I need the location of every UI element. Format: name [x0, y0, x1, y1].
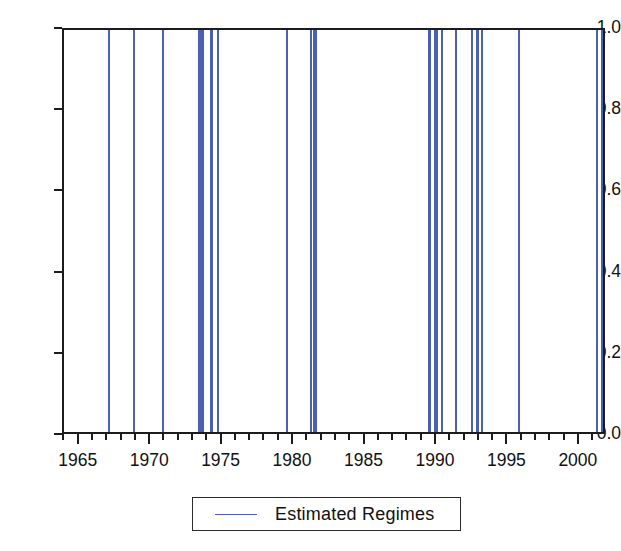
x-tick-label: 2000 — [543, 452, 613, 470]
x-tick-minor — [234, 434, 236, 440]
x-tick-minor — [491, 434, 493, 440]
regime-spike — [434, 30, 438, 432]
regime-spike — [455, 30, 457, 432]
x-tick-minor — [105, 434, 107, 440]
y-tick-mark — [54, 189, 62, 191]
x-tick-label: 1975 — [186, 452, 256, 470]
regime-spike — [476, 30, 480, 432]
x-tick-major — [577, 434, 579, 444]
x-tick-minor — [591, 434, 593, 440]
x-tick-minor — [563, 434, 565, 440]
x-tick-minor — [205, 434, 207, 440]
regime-spike — [601, 30, 603, 432]
x-tick-minor — [248, 434, 250, 440]
x-tick-minor — [91, 434, 93, 440]
x-tick-major — [434, 434, 436, 444]
x-tick-major — [363, 434, 365, 444]
regime-spike — [198, 30, 204, 432]
regime-spike — [596, 30, 598, 432]
x-tick-major — [291, 434, 293, 444]
x-tick-label: 1970 — [114, 452, 184, 470]
y-tick-mark — [54, 433, 62, 435]
regime-spike — [286, 30, 288, 432]
x-tick-minor — [191, 434, 193, 440]
x-tick-minor — [477, 434, 479, 440]
x-tick-minor — [463, 434, 465, 440]
x-tick-minor — [405, 434, 407, 440]
plot-area — [62, 28, 605, 434]
x-tick-minor — [548, 434, 550, 440]
x-tick-minor — [120, 434, 122, 440]
regime-spike — [133, 30, 135, 432]
regime-spike — [108, 30, 110, 432]
x-tick-major — [220, 434, 222, 444]
x-tick-label: 1985 — [329, 452, 399, 470]
x-tick-major — [148, 434, 150, 444]
regime-spike — [471, 30, 473, 432]
x-tick-label: 1990 — [400, 452, 470, 470]
x-tick-minor — [262, 434, 264, 440]
x-tick-major — [505, 434, 507, 444]
x-tick-label: 1965 — [43, 452, 113, 470]
x-tick-minor — [277, 434, 279, 440]
regime-spike — [428, 30, 430, 432]
legend-label-estimated-regimes: Estimated Regimes — [275, 504, 434, 525]
y-tick-mark — [54, 27, 62, 29]
x-tick-label: 1995 — [471, 452, 541, 470]
legend-line-sample-estimated-regimes — [215, 514, 257, 515]
x-tick-minor — [534, 434, 536, 440]
x-tick-minor — [177, 434, 179, 440]
x-tick-minor — [134, 434, 136, 440]
x-tick-minor — [348, 434, 350, 440]
x-tick-minor — [420, 434, 422, 440]
y-tick-mark — [54, 352, 62, 354]
x-tick-minor — [320, 434, 322, 440]
regime-spike — [518, 30, 520, 432]
x-tick-minor — [334, 434, 336, 440]
regime-spike — [313, 30, 317, 432]
x-tick-minor — [520, 434, 522, 440]
regime-spike — [162, 30, 164, 432]
x-tick-label: 1980 — [257, 452, 327, 470]
x-tick-minor — [391, 434, 393, 440]
x-tick-minor — [162, 434, 164, 440]
regime-spike — [210, 30, 212, 432]
regime-spike — [310, 30, 312, 432]
x-tick-minor — [62, 434, 64, 440]
chart-figure: 0.00.20.40.60.81.0 196519701975198019851… — [0, 0, 621, 551]
x-tick-minor — [377, 434, 379, 440]
x-tick-minor — [448, 434, 450, 440]
estimated-regimes-series — [64, 30, 603, 432]
legend: Estimated Regimes — [192, 497, 461, 531]
regime-spike — [481, 30, 483, 432]
x-tick-major — [77, 434, 79, 444]
regime-spike — [604, 30, 605, 432]
x-tick-minor — [305, 434, 307, 440]
regime-spike — [217, 30, 219, 432]
regime-spike — [441, 30, 443, 432]
y-tick-mark — [54, 271, 62, 273]
y-tick-mark — [54, 108, 62, 110]
